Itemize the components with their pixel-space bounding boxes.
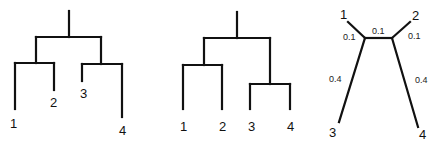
tree-unequal-rooted: 1 2 3 4 bbox=[10, 11, 126, 138]
branch-length-leaf1: 0.1 bbox=[343, 32, 356, 42]
leaf-label-4: 4 bbox=[119, 123, 126, 138]
leaf-label-3: 3 bbox=[80, 86, 87, 101]
tree-ultrametric-rooted: 1 2 3 4 bbox=[180, 12, 294, 134]
phylogenetic-trees-figure: 1 2 3 4 1 2 3 4 1 2 3 4 0.1 0.1 0.1 0.4 bbox=[0, 0, 439, 145]
leaf-label-2: 2 bbox=[50, 95, 57, 110]
leaf-label-2: 2 bbox=[412, 8, 419, 23]
branch-length-leaf2: 0.1 bbox=[408, 31, 421, 41]
leaf-label-2: 2 bbox=[219, 119, 226, 134]
tree-unrooted: 1 2 3 4 0.1 0.1 0.1 0.4 0.4 bbox=[329, 7, 428, 142]
leaf-label-3: 3 bbox=[329, 125, 336, 140]
leaf-label-4: 4 bbox=[287, 119, 294, 134]
leaf-label-1: 1 bbox=[10, 116, 17, 131]
branch-length-internal: 0.1 bbox=[372, 26, 385, 36]
branch-length-leaf3: 0.4 bbox=[329, 74, 342, 84]
leaf-label-1: 1 bbox=[340, 7, 347, 22]
leaf-branch-3 bbox=[339, 38, 365, 122]
leaf-label-3: 3 bbox=[248, 119, 255, 134]
branch-length-leaf4: 0.4 bbox=[415, 75, 428, 85]
leaf-label-4: 4 bbox=[419, 127, 426, 142]
leaf-label-1: 1 bbox=[180, 119, 187, 134]
